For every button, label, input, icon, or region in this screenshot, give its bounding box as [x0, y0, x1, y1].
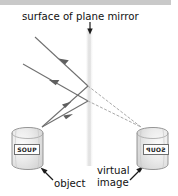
plane-mirror-diagram: SOUP SOUP surface of plane mirror object… — [0, 0, 178, 196]
object-can-label: SOUP — [14, 144, 40, 155]
object-callout-arrow — [41, 168, 54, 181]
object-can-label-text: SOUP — [17, 147, 37, 153]
virtual-image-can-label: SOUP — [143, 144, 169, 155]
reflected-rays — [23, 37, 88, 101]
diagram-vector-layer — [0, 0, 178, 196]
virtual-image-label: virtual image — [97, 165, 130, 188]
mirror-surface — [86, 28, 93, 166]
virtual-image-callout-arrow — [130, 167, 144, 181]
object-label: object — [54, 178, 85, 189]
virtual-ray-extensions — [88, 86, 141, 127]
mirror-surface-title: surface of plane mirror — [22, 11, 139, 22]
reflected-ray-arrowheads — [49, 59, 69, 86]
virtual-image-can-label-text: SOUP — [146, 147, 166, 153]
